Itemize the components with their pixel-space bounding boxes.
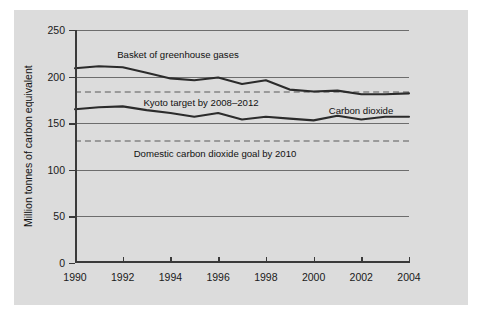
y-tick-label-200: 200: [47, 71, 65, 83]
x-tick-label-2002: 2002: [350, 271, 373, 283]
x-axis-line: [75, 261, 409, 263]
series-lines: [75, 30, 409, 263]
x-tick-1994: [170, 257, 171, 263]
chart-figure: Million tonnes of carbon equivalent 250 …: [14, 10, 468, 305]
x-tick-2004: [409, 257, 410, 263]
annotation-domestic-goal: Domestic carbon dioxide goal by 2010: [134, 148, 297, 159]
y-tick-100: [69, 170, 75, 171]
x-tick-label-1992: 1992: [111, 271, 134, 283]
x-tick-2000: [314, 257, 315, 263]
x-tick-1996: [218, 257, 219, 263]
x-tick-label-2000: 2000: [302, 271, 325, 283]
plot-area: 250 200 150 100 50 0 1990 1992 1994 1996…: [75, 30, 409, 263]
annotation-carbon-dioxide: Carbon dioxide: [329, 105, 394, 116]
y-tick-150: [69, 123, 75, 124]
x-tick-label-1990: 1990: [63, 271, 86, 283]
x-tick-1992: [123, 257, 124, 263]
x-tick-1998: [266, 257, 267, 263]
y-tick-label-50: 50: [53, 210, 65, 222]
y-axis-title: Million tonnes of carbon equivalent: [22, 30, 34, 263]
y-tick-label-150: 150: [47, 117, 65, 129]
x-tick-1990: [75, 257, 76, 263]
x-tick-label-2004: 2004: [397, 271, 420, 283]
x-tick-label-1996: 1996: [206, 271, 229, 283]
y-tick-0: [69, 263, 75, 264]
y-tick-250: [69, 30, 75, 31]
y-tick-label-0: 0: [59, 257, 65, 269]
series-basket-of-greenhouse-gases: [75, 66, 409, 94]
y-axis-line: [75, 30, 77, 263]
y-tick-200: [69, 77, 75, 78]
y-tick-label-250: 250: [47, 24, 65, 36]
y-tick-label-100: 100: [47, 164, 65, 176]
x-tick-2002: [361, 257, 362, 263]
annotation-kyoto-target: Kyoto target by 2008–2012: [143, 97, 258, 108]
annotation-basket-of-greenhouse-gases: Basket of greenhouse gases: [117, 49, 239, 60]
x-tick-label-1994: 1994: [159, 271, 182, 283]
y-tick-50: [69, 216, 75, 217]
x-tick-label-1998: 1998: [254, 271, 277, 283]
